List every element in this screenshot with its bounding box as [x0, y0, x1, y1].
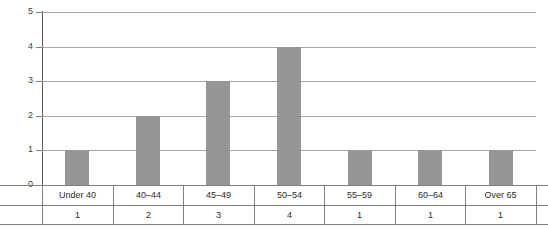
gridline [42, 12, 536, 13]
value-cell: 2 [113, 205, 184, 225]
y-tick-label: 5 [9, 7, 33, 16]
category-label-cell: Under 40 [42, 185, 113, 205]
y-tick-label-wrap: 3 [0, 76, 33, 85]
bar [206, 81, 230, 185]
bar [277, 47, 301, 185]
bar [65, 150, 89, 185]
category-label-cell: 55–59 [324, 185, 395, 205]
y-tick-label-wrap: 4 [0, 42, 33, 51]
value-cell: 3 [183, 205, 254, 225]
plot-area [42, 12, 536, 185]
bar [418, 150, 442, 185]
bar [136, 116, 160, 185]
bar [348, 150, 372, 185]
value-cell: 4 [254, 205, 325, 225]
y-tick-label-wrap: 5 [0, 7, 33, 16]
y-tick-label: 1 [9, 145, 33, 154]
category-label-cell: 45–49 [183, 185, 254, 205]
category-label-cell: 40–44 [113, 185, 184, 205]
value-cell: 1 [42, 205, 113, 225]
data-table: Under 40140–44245–49350–54455–59160–641O… [0, 185, 548, 225]
value-cell: 1 [324, 205, 395, 225]
category-label-cell: 50–54 [254, 185, 325, 205]
y-tick-label: 4 [9, 42, 33, 51]
y-tick-label: 2 [9, 111, 33, 120]
y-tick-label-wrap: 2 [0, 111, 33, 120]
table-column-divider [536, 185, 537, 224]
category-label-cell: Over 65 [465, 185, 536, 205]
value-cell: 1 [395, 205, 466, 225]
y-tick-label-wrap: 1 [0, 145, 33, 154]
value-cell: 1 [465, 205, 536, 225]
y-tick-label: 3 [9, 76, 33, 85]
bar-chart-screenshot: 012345 Under 40140–44245–49350–54455–591… [0, 0, 548, 228]
category-label-cell: 60–64 [395, 185, 466, 205]
bar [489, 150, 513, 185]
